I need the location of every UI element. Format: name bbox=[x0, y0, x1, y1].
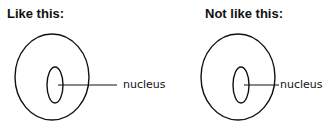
cell-outline bbox=[201, 34, 275, 120]
cell-outline bbox=[15, 34, 89, 120]
nucleus-label: nucleus bbox=[123, 78, 166, 91]
cell-diagrams: nucleus nucleus bbox=[0, 0, 328, 135]
nucleus-label: nucleus bbox=[280, 78, 323, 91]
incorrect-cell-diagram: nucleus bbox=[201, 34, 323, 120]
correct-cell-diagram: nucleus bbox=[15, 34, 166, 120]
